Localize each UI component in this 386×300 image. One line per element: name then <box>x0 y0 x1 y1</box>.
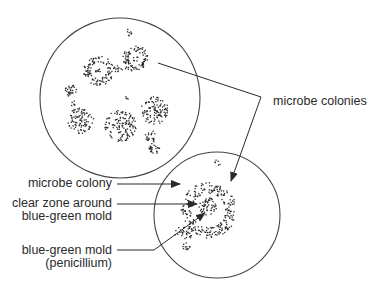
label-clear-zone-line2: blue-green mold <box>22 210 112 223</box>
label-microbe-colonies: microbe colonies <box>273 95 367 108</box>
label-mold-line2: (penicillium) <box>45 257 112 270</box>
petri-dish-top <box>40 18 200 178</box>
label-microbe-colony: microbe colony <box>28 177 112 190</box>
petri-dish-bottom <box>154 152 280 278</box>
leader-microbe-colonies <box>158 63 261 181</box>
diagram-canvas: microbe colonies microbe colony clear zo… <box>0 0 386 300</box>
